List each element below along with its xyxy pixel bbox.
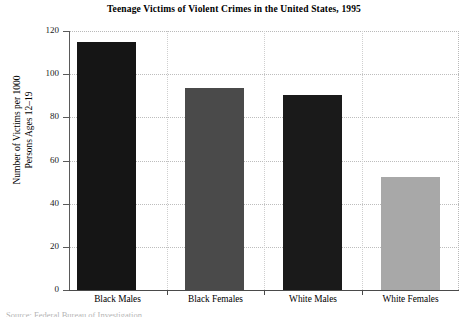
y-axis-line — [69, 31, 70, 290]
source-note: Source: Federal Bureau of Investigation — [6, 310, 306, 317]
y-tick-mark-60 — [63, 161, 69, 162]
y-tick-mark-40 — [63, 204, 69, 205]
bar-black-males[interactable] — [77, 42, 136, 290]
y-tick-label-0: 0 — [0, 284, 59, 294]
x-tick-label-black-females: Black Females — [161, 294, 271, 304]
category-separator-2 — [264, 31, 265, 290]
chart-title: Teenage Victims of Violent Crimes in the… — [0, 4, 468, 14]
category-separator-3 — [362, 31, 363, 290]
y-tick-mark-80 — [63, 117, 69, 118]
category-separator-1 — [167, 31, 168, 290]
bar-chart-figure: Teenage Victims of Violent Crimes in the… — [0, 0, 468, 317]
y-tick-mark-0 — [63, 290, 69, 291]
y-tick-mark-20 — [63, 247, 69, 248]
bar-black-females[interactable] — [185, 88, 244, 290]
x-tick-label-white-males: White Males — [258, 294, 368, 304]
y-axis-title: Number of Victims per 1000 Persons Ages … — [11, 25, 35, 235]
x-tick-label-white-females: White Females — [356, 294, 466, 304]
y-tick-label-20: 20 — [0, 241, 59, 251]
y-axis-title-line2: Persons Ages 12–19 — [23, 25, 35, 235]
y-tick-mark-120 — [63, 31, 69, 32]
bar-white-males[interactable] — [283, 95, 342, 290]
y-axis-title-line1: Number of Victims per 1000 — [11, 25, 23, 235]
y-tick-mark-100 — [63, 74, 69, 75]
plot-area — [69, 31, 459, 290]
x-tick-label-black-males: Black Males — [63, 294, 173, 304]
bar-white-females[interactable] — [381, 177, 440, 290]
